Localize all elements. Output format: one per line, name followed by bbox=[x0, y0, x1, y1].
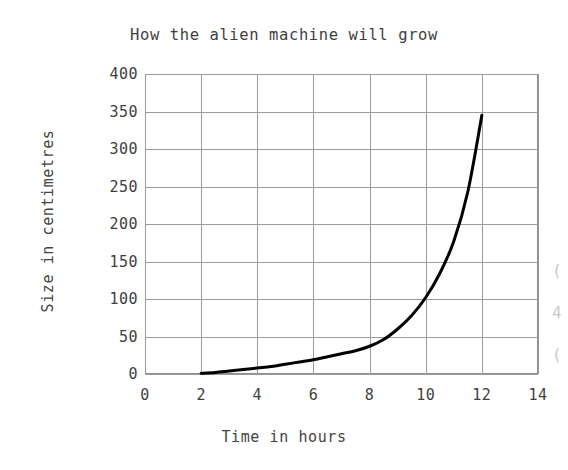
x-tick-label: 12 bbox=[462, 386, 502, 404]
margin-fragment: 4 bbox=[552, 292, 568, 334]
plot-area bbox=[145, 74, 538, 374]
x-tick-label: 10 bbox=[406, 386, 446, 404]
y-tick-label: 350 bbox=[72, 103, 138, 121]
y-tick-label: 0 bbox=[72, 365, 138, 383]
margin-fragment: ( bbox=[552, 250, 568, 292]
x-tick-label: 8 bbox=[350, 386, 390, 404]
x-tick-label: 2 bbox=[181, 386, 221, 404]
y-tick-label: 400 bbox=[72, 65, 138, 83]
page-margin-fragments: (4( bbox=[552, 250, 568, 380]
y-tick-label: 300 bbox=[72, 140, 138, 158]
gridline-vertical bbox=[538, 74, 539, 374]
data-series-line bbox=[145, 74, 538, 374]
y-axis-title: Size in centimetres bbox=[39, 76, 57, 366]
margin-fragment: ( bbox=[552, 334, 568, 376]
y-tick-label: 50 bbox=[72, 328, 138, 346]
chart-figure: How the alien machine will grow Size in … bbox=[0, 0, 568, 470]
x-tick-label: 4 bbox=[237, 386, 277, 404]
x-axis-tick-labels: 02468101214 bbox=[0, 386, 568, 410]
y-tick-label: 100 bbox=[72, 290, 138, 308]
x-tick-label: 14 bbox=[518, 386, 558, 404]
x-tick-label: 0 bbox=[125, 386, 165, 404]
y-tick-label: 150 bbox=[72, 253, 138, 271]
x-tick-label: 6 bbox=[293, 386, 333, 404]
y-tick-label: 200 bbox=[72, 215, 138, 233]
y-tick-label: 250 bbox=[72, 178, 138, 196]
